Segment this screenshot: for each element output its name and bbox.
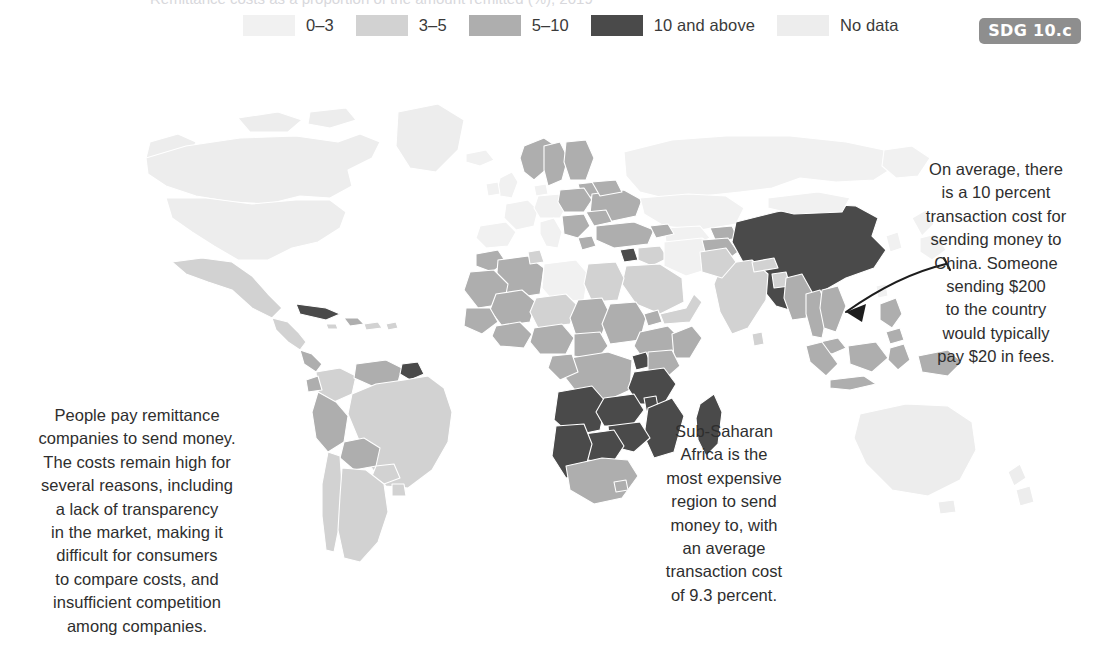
region-south-america bbox=[306, 360, 452, 562]
region-north-america bbox=[146, 104, 464, 372]
legend-label: No data bbox=[840, 16, 899, 35]
legend-items: 0–3 3–5 5–10 10 and above No data bbox=[243, 15, 921, 36]
world-map[interactable]: .c0{fill:#f1f1f1} /* 0-3 */ .c1{fill:#d2… bbox=[0, 46, 1097, 658]
legend-item-5-10[interactable]: 5–10 bbox=[469, 15, 591, 36]
annotation-sub-saharan-africa: Sub-Saharan Africa is the most expensive… bbox=[640, 420, 808, 607]
legend-item-3-5[interactable]: 3–5 bbox=[356, 15, 469, 36]
legend-swatch-icon bbox=[243, 15, 295, 36]
legend-label: 3–5 bbox=[419, 16, 447, 35]
legend-swatch-icon bbox=[469, 15, 521, 36]
annotation-china: On average, there is a 10 percent transa… bbox=[898, 158, 1094, 369]
chart-title-cropped: Remittance costs as a proportion of the … bbox=[0, 0, 1097, 7]
legend-label: 5–10 bbox=[532, 16, 569, 35]
legend: 0–3 3–5 5–10 10 and above No data SDG 10… bbox=[0, 8, 1097, 42]
legend-label: 0–3 bbox=[306, 16, 334, 35]
legend-label: 10 and above bbox=[654, 16, 755, 35]
legend-item-no-data[interactable]: No data bbox=[777, 15, 921, 36]
sdg-goal-badge[interactable]: SDG 10.c bbox=[979, 18, 1081, 44]
legend-swatch-icon bbox=[591, 15, 643, 36]
legend-swatch-icon bbox=[356, 15, 408, 36]
legend-item-10-and-above[interactable]: 10 and above bbox=[591, 15, 777, 36]
infographic-root: Remittance costs as a proportion of the … bbox=[0, 0, 1097, 658]
annotation-remittance-companies: People pay remittance companies to send … bbox=[6, 404, 268, 638]
chart-title-text: Remittance costs as a proportion of the … bbox=[150, 0, 1097, 6]
legend-swatch-icon bbox=[777, 15, 829, 36]
legend-item-0-3[interactable]: 0–3 bbox=[243, 15, 356, 36]
region-oceania bbox=[854, 404, 1034, 514]
